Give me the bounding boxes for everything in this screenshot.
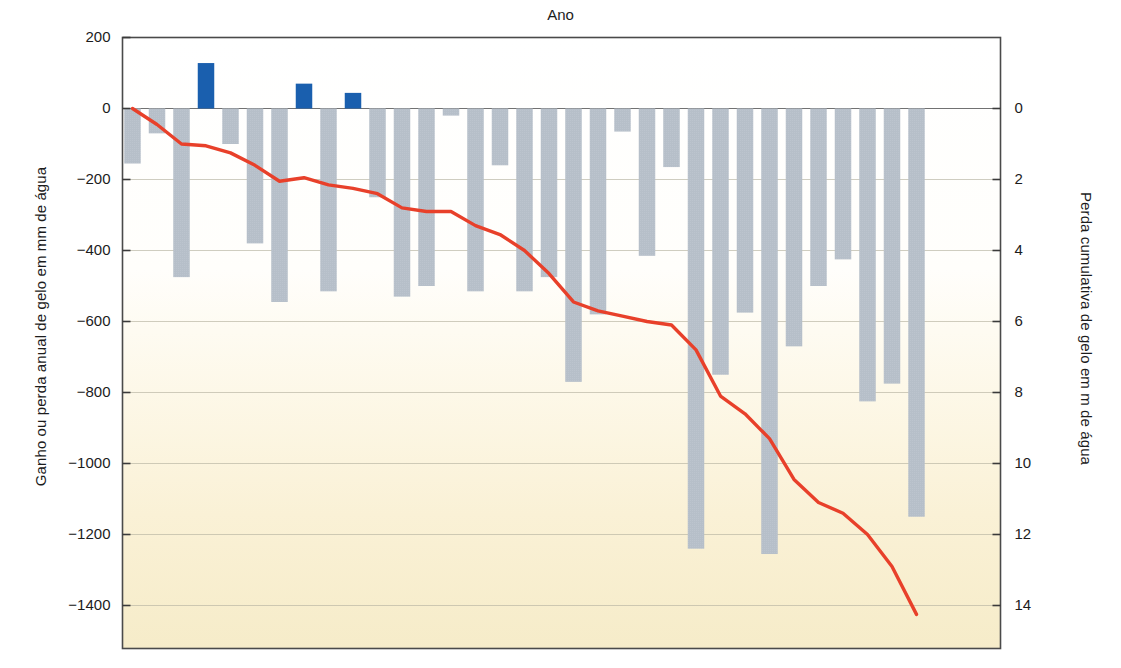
chart-figure: Ano Ganho ou perda anual de gelo em mm d…: [0, 0, 1121, 668]
plot-area: [0, 0, 1121, 668]
